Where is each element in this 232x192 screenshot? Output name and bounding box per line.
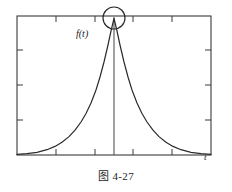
- figure-caption: 图 4-27: [0, 167, 232, 183]
- y-axis-ticks-left: [17, 50, 23, 120]
- curve-label-ft: f(t): [76, 28, 88, 39]
- figure-container: f(t) t 图 4-27: [0, 0, 232, 192]
- x-axis-label: t: [204, 152, 207, 162]
- plot-svg: [0, 0, 232, 192]
- y-axis-ticks-right: [205, 50, 211, 120]
